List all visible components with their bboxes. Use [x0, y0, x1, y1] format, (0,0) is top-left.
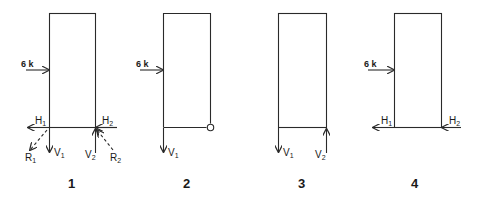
- panel-2-number: 2: [183, 177, 190, 190]
- panel-1-r1-arrow: [30, 130, 47, 150]
- panel-2-pin-icon: [207, 124, 213, 130]
- panel-1-v1-label: V1: [54, 148, 65, 159]
- panel-1-r1-label: R1: [25, 153, 36, 164]
- panel-3-number: 3: [298, 177, 305, 190]
- panel-1-frame: [50, 14, 118, 128]
- panel-3-frame: [279, 14, 327, 128]
- panel-1-h1-label: H1: [35, 116, 46, 127]
- panel-4-number: 4: [411, 177, 418, 190]
- panel-3-v1-label: V1: [283, 148, 294, 159]
- panel-1-h2-label: H2: [102, 116, 113, 127]
- panel-4-h1-label: H1: [381, 116, 392, 127]
- panel-4-frame: [395, 14, 442, 128]
- panel-1-r2-label: R2: [110, 153, 121, 164]
- panel-1-load-label: 6 k: [21, 60, 34, 69]
- panel-1-number: 1: [68, 177, 75, 190]
- panel-1-r2-arrow: [97, 130, 113, 150]
- panel-1-v2-label: V2: [85, 150, 96, 161]
- panel-4-h2-label: H2: [449, 116, 460, 127]
- panel-3-v2-label: V2: [315, 150, 326, 161]
- diagram-canvas: [0, 0, 483, 202]
- panel-2-frame: [164, 14, 214, 131]
- panel-2-v1-label: V1: [168, 148, 179, 159]
- panel-2-load-label: 6 k: [136, 60, 149, 69]
- panel-4-load-label: 6 k: [364, 60, 377, 69]
